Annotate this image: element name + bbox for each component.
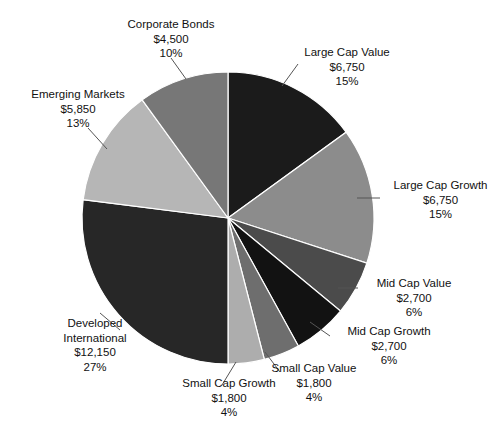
slice-label-value: $2,700 (360, 291, 468, 306)
slice-label-value: $6,750 (382, 193, 499, 208)
slice-label-value: $4,500 (102, 32, 240, 47)
slice-label-large-cap-value: Large Cap Value $6,750 15% (281, 45, 413, 89)
slice-label-emerging-markets: Emerging Markets $5,850 13% (8, 87, 148, 131)
slice-label-percent: 10% (102, 46, 240, 61)
slice-label-percent: 13% (8, 116, 148, 131)
slice-label-name: Small Cap Value (258, 361, 370, 376)
slice-label-name: Large Cap Value (281, 45, 413, 60)
slice-label-percent: 6% (360, 305, 468, 320)
slice-label-value: $12,150 (35, 345, 155, 360)
slice-label-name: Mid Cap Value (360, 276, 468, 291)
slice-label-name: Small Cap Growth (170, 376, 288, 391)
slice-label-small-cap-growth: Small Cap Growth $1,800 4% (170, 376, 288, 420)
slice-label-value: $2,700 (330, 339, 448, 354)
slice-label-corporate-bonds: Corporate Bonds $4,500 10% (102, 17, 240, 61)
corporate-bonds-leader (171, 58, 186, 79)
slice-label-name: Large Cap Growth (382, 178, 499, 193)
slice-label-developed-international: Developed International $12,150 27% (35, 316, 155, 374)
slice-label-value: $6,750 (281, 60, 413, 75)
slice-label-percent: 4% (170, 405, 288, 420)
slice-label-percent: 27% (35, 360, 155, 375)
slice-label-value: $1,800 (170, 391, 288, 406)
slice-label-name: Emerging Markets (8, 87, 148, 102)
slice-label-name-line2: International (35, 331, 155, 346)
pie-chart-page: Corporate Bonds $4,500 10% Emerging Mark… (0, 0, 499, 439)
slice-label-percent: 15% (382, 207, 499, 222)
emerging-markets-leader (88, 128, 107, 149)
slice-label-name: Corporate Bonds (102, 17, 240, 32)
slice-label-value: $5,850 (8, 102, 148, 117)
slice-label-percent: 15% (281, 74, 413, 89)
slice-label-large-cap-growth: Large Cap Growth $6,750 15% (382, 178, 499, 222)
slice-label-name-line1: Developed (35, 316, 155, 331)
slice-label-mid-cap-value: Mid Cap Value $2,700 6% (360, 276, 468, 320)
slice-label-name: Mid Cap Growth (330, 324, 448, 339)
